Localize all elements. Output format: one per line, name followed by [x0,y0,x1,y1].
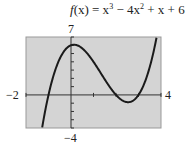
ymin-label: −4 [64,131,77,145]
plot-window [26,37,161,128]
ymax-label: 7 [68,22,74,36]
xmin-label: −2 [6,88,19,102]
xmax-label: 4 [165,88,171,102]
graph: 7 −4 −2 4 [0,0,186,148]
